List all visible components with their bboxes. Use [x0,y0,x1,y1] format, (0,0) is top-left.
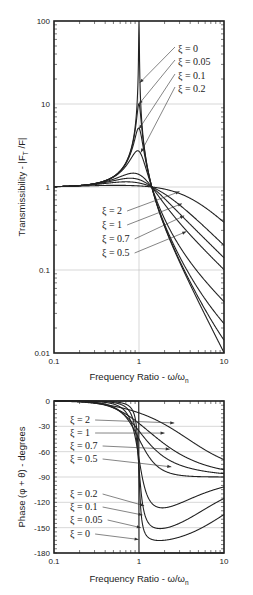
annotation-arrow [135,232,187,253]
x-tick-label: 0.1 [48,557,60,566]
annotation-label: ξ = 2 [102,205,122,217]
x-tick-labels: 0.1110 [48,557,229,566]
annotation-label: ξ = 0.2 [70,488,98,500]
y-axis-title: Transmissibility - |FT /F| [16,138,29,237]
transmissibility-and-phase-charts: 0.010.1110100 0.1110 ξ = 0ξ = 0.05ξ = 0.… [0,0,253,595]
x-tick-label: 0.1 [48,357,60,366]
y-tick-label: -150 [34,524,51,533]
annotation-label: ξ = 0.5 [102,247,130,259]
y-tick-label: 0.1 [39,266,51,275]
y-tick-label: 1 [46,183,51,192]
annotation-label: ξ = 0 [70,528,90,540]
x-axis-title: Frequency Ratio - ω/ωn [89,371,189,384]
y-tick-label: 0 [46,397,51,406]
annotation-label: ξ = 0.5 [70,453,98,465]
arrowhead-icon [170,421,174,424]
annotations: ξ = 0ξ = 0.05ξ = 0.1ξ = 0.2ξ = 2ξ = 1ξ =… [102,43,211,259]
annotation-arrow [127,204,182,225]
x-tick-label: 10 [220,357,229,366]
annotation-arrow [141,87,175,153]
y-tick-label: 100 [37,17,51,26]
y-tick-label: 10 [41,100,50,109]
annotation-label: ξ = 0 [178,43,198,55]
arrowhead-icon [134,537,138,540]
annotation-label: ξ = 0.2 [178,83,206,95]
x-tick-label: 10 [220,557,229,566]
annotation-label: ξ = 1 [102,219,122,231]
arrowhead-icon [138,513,142,516]
y-axis-title: Phase (φ + θ) - degrees [16,426,27,527]
annotation-arrow [103,507,143,515]
arrowhead-icon [182,232,186,235]
annotation-arrow [140,47,175,83]
annotation-arrow [108,520,141,528]
phase-chart: 0-30-60-90-120-150-180 0.1110 ξ = 2ξ = 1… [16,397,229,586]
annotation-arrow [103,459,172,467]
annotation-label: ξ = 2 [70,414,90,426]
annotation-label: ξ = 0.05 [178,56,211,68]
y-tick-label: -90 [38,473,50,482]
annotation-label: ξ = 0.7 [70,440,98,452]
x-tick-label: 1 [137,357,142,366]
annotation-label: ξ = 0.1 [70,501,98,513]
arrowhead-icon [161,431,165,434]
x-tick-label: 1 [137,557,142,566]
y-tick-labels: 0.010.1110100 [34,17,50,358]
annotation-label: ξ = 1 [70,427,90,439]
annotation-label: ξ = 0.1 [178,70,206,82]
arrowhead-icon [167,465,171,468]
annotation-label: ξ = 0.7 [102,233,130,245]
y-tick-label: -30 [38,422,50,431]
x-axis-title: Frequency Ratio - ω/ωn [89,573,189,586]
annotation-arrow [95,534,139,539]
transmissibility-chart: 0.010.1110100 0.1110 ξ = 0ξ = 0.05ξ = 0.… [16,17,229,384]
y-tick-label: -60 [38,448,50,457]
x-tick-labels: 0.1110 [48,357,229,366]
y-tick-labels: 0-30-60-90-120-150-180 [34,397,51,558]
annotation-arrow [103,494,145,506]
annotation-label: ξ = 0.05 [70,514,103,526]
annotation-arrow [103,446,170,449]
y-tick-label: -120 [34,498,51,507]
